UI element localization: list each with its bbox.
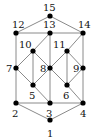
edge-5-3 xyxy=(33,85,50,103)
node-9 xyxy=(80,65,85,70)
node-15 xyxy=(47,13,52,18)
node-label-8: 8 xyxy=(40,63,46,74)
node-label-13: 13 xyxy=(43,19,56,30)
node-label-11: 11 xyxy=(53,39,66,50)
edge-4-1 xyxy=(50,103,83,120)
node-4 xyxy=(80,100,85,105)
node-label-1: 1 xyxy=(47,128,53,138)
lattice-diagram: 123456789101112131415 xyxy=(0,0,94,138)
node-label-3: 3 xyxy=(46,108,52,119)
node-12 xyxy=(13,30,18,35)
node-label-5: 5 xyxy=(29,90,35,101)
node-13 xyxy=(47,30,52,35)
node-label-10: 10 xyxy=(19,39,32,50)
edge-13-10 xyxy=(33,33,50,51)
node-14 xyxy=(80,30,85,35)
node-label-9: 9 xyxy=(73,63,79,74)
node-5 xyxy=(30,82,35,87)
edge-6-4 xyxy=(67,85,83,103)
node-label-12: 12 xyxy=(12,19,25,30)
edge-2-1 xyxy=(16,103,50,120)
edge-7-5 xyxy=(16,68,33,85)
node-label-6: 6 xyxy=(63,90,69,101)
edge-14-11 xyxy=(67,33,83,51)
node-label-7: 7 xyxy=(6,63,12,74)
node-8 xyxy=(47,65,52,70)
node-label-14: 14 xyxy=(78,19,91,30)
node-label-2: 2 xyxy=(12,108,18,119)
node-7 xyxy=(13,65,18,70)
node-label-4: 4 xyxy=(80,108,86,119)
node-6 xyxy=(64,82,69,87)
edge-10-7 xyxy=(16,51,33,68)
edge-11-8 xyxy=(50,51,67,68)
node-label-15: 15 xyxy=(43,2,56,13)
node-2 xyxy=(13,100,18,105)
edge-8-6 xyxy=(50,68,67,85)
node-3 xyxy=(47,100,52,105)
